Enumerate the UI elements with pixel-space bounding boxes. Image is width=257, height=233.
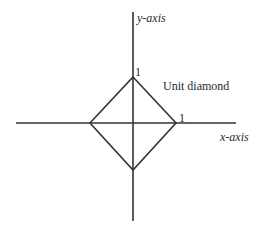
diagram-svg: y-axis 1 Unit diamond 1 x-axis (0, 0, 257, 233)
unit-diamond-diagram: y-axis 1 Unit diamond 1 x-axis (0, 0, 257, 233)
unit-diamond-label: Unit diamond (163, 79, 229, 93)
y-tick-label-one: 1 (135, 65, 141, 79)
x-axis-label: x-axis (219, 130, 249, 144)
y-axis-label: y-axis (136, 11, 166, 25)
x-tick-label-one: 1 (179, 111, 185, 125)
